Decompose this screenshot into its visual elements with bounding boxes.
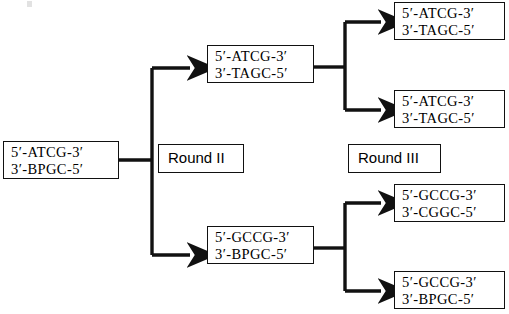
diagram-canvas: 5′-ATCG-3′ 3′-BPGC-5′ Round II Round III… xyxy=(0,0,509,314)
round3-duplex-b-bottom-strand: 3′-TAGC-5′ xyxy=(402,110,497,127)
template-duplex-box: 5′-ATCG-3′ 3′-BPGC-5′ xyxy=(3,141,119,179)
round3-duplex-d-top-strand: 5′-GCCG-3′ xyxy=(402,274,497,291)
round3-duplex-d-box: 5′-GCCG-3′ 3′-BPGC-5′ xyxy=(394,271,505,309)
round-iii-label: Round III xyxy=(358,149,419,166)
template-duplex-bottom-strand: 3′-BPGC-5′ xyxy=(11,161,111,178)
round2-bottom-duplex-bottom-strand: 3′-BPGC-5′ xyxy=(215,246,306,263)
round3-duplex-c-top-strand: 5′-GCCG-3′ xyxy=(402,187,497,204)
round2-bottom-duplex-box: 5′-GCCG-3′ 3′-BPGC-5′ xyxy=(207,226,314,264)
round2-top-duplex-top-strand: 5′-ATCG-3′ xyxy=(215,48,306,65)
round2-top-duplex-bottom-strand: 3′-TAGC-5′ xyxy=(215,65,306,82)
round3-duplex-a-box: 5′-ATCG-3′ 3′-TAGC-5′ xyxy=(394,2,505,40)
round-ii-label-box: Round II xyxy=(158,144,244,173)
round3-duplex-b-box: 5′-ATCG-3′ 3′-TAGC-5′ xyxy=(394,90,505,128)
round-iii-label-box: Round III xyxy=(348,144,441,173)
scan-artifact xyxy=(27,1,32,7)
round2-bottom-duplex-top-strand: 5′-GCCG-3′ xyxy=(215,229,306,246)
template-duplex-top-strand: 5′-ATCG-3′ xyxy=(11,144,111,161)
round3-duplex-a-bottom-strand: 3′-TAGC-5′ xyxy=(402,22,497,39)
round3-duplex-b-top-strand: 5′-ATCG-3′ xyxy=(402,93,497,110)
round3-duplex-c-bottom-strand: 3′-CGGC-5′ xyxy=(402,204,497,221)
round3-duplex-c-box: 5′-GCCG-3′ 3′-CGGC-5′ xyxy=(394,184,505,222)
round3-duplex-a-top-strand: 5′-ATCG-3′ xyxy=(402,5,497,22)
round2-top-duplex-box: 5′-ATCG-3′ 3′-TAGC-5′ xyxy=(207,45,314,83)
round-ii-label: Round II xyxy=(168,149,225,166)
round3-duplex-d-bottom-strand: 3′-BPGC-5′ xyxy=(402,291,497,308)
